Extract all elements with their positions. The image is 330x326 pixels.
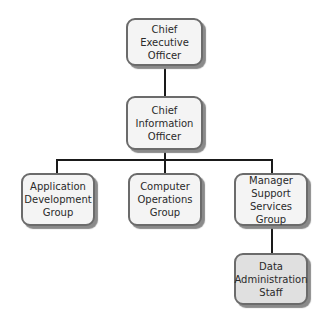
node-label: Chief Executive Officer bbox=[131, 23, 198, 62]
node-manager-support-services-group: Manager Support Services Group bbox=[234, 173, 308, 226]
connector-mgr-data-admin bbox=[271, 226, 273, 253]
node-label: Manager Support Services Group bbox=[239, 174, 303, 226]
connector-bus-comp-ops bbox=[164, 159, 166, 173]
node-label: Computer Operations Group bbox=[138, 180, 193, 219]
node-computer-operations-group: Computer Operations Group bbox=[128, 173, 202, 226]
connector-ceo-cio bbox=[164, 66, 166, 96]
node-chief-executive-officer: Chief Executive Officer bbox=[126, 18, 203, 66]
node-label: Data Administration Staff bbox=[234, 260, 307, 299]
node-application-development-group: Application Development Group bbox=[21, 173, 95, 226]
connector-bus-app-dev bbox=[56, 159, 58, 173]
node-label: Application Development Group bbox=[24, 180, 91, 219]
connector-bus-mgr-support bbox=[271, 159, 273, 173]
node-data-administration-staff: Data Administration Staff bbox=[234, 253, 308, 305]
node-chief-information-officer: Chief Information Officer bbox=[126, 96, 203, 150]
node-label: Chief Information Officer bbox=[136, 104, 194, 143]
org-chart: Chief Executive Officer Chief Informatio… bbox=[0, 0, 330, 326]
